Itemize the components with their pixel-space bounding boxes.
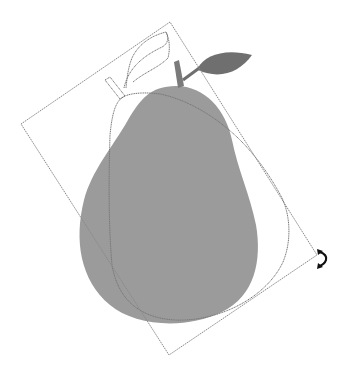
pear-stem bbox=[174, 60, 184, 88]
pear-object[interactable] bbox=[80, 52, 258, 323]
artboard[interactable] bbox=[0, 0, 339, 373]
pear-leaf bbox=[198, 52, 252, 74]
pear-body[interactable] bbox=[80, 86, 258, 323]
preview-stem bbox=[105, 77, 125, 99]
rotate-cursor-icon bbox=[316, 248, 330, 270]
preview-leaf-vein bbox=[133, 32, 169, 82]
preview-leaf bbox=[124, 32, 168, 88]
